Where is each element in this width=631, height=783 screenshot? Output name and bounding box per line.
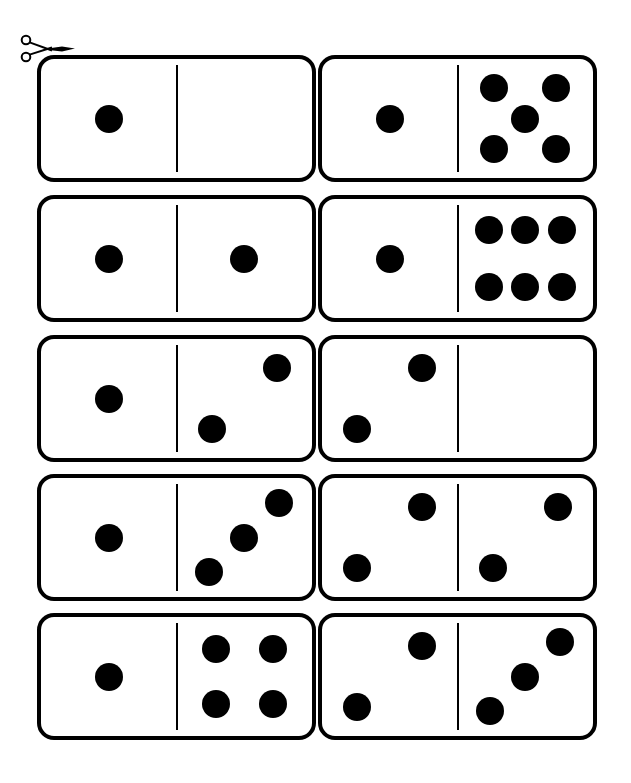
domino-pip — [511, 273, 539, 301]
domino-pip — [408, 354, 436, 382]
domino-half-right — [458, 199, 594, 318]
domino-pip — [476, 697, 504, 725]
domino-pip — [259, 690, 287, 718]
domino-tile[interactable] — [37, 195, 316, 322]
domino-tile[interactable] — [318, 195, 597, 322]
domino-pip — [95, 105, 123, 133]
domino-half-right — [458, 478, 594, 597]
domino-half-right — [177, 617, 313, 736]
domino-tile[interactable] — [37, 613, 316, 740]
domino-pip — [548, 216, 576, 244]
domino-tile[interactable] — [318, 55, 597, 182]
domino-pip — [202, 690, 230, 718]
domino-pip — [95, 385, 123, 413]
domino-half-left — [322, 59, 458, 178]
domino-half-left — [41, 617, 177, 736]
domino-tile[interactable] — [37, 474, 316, 601]
domino-pip — [511, 105, 539, 133]
domino-pip — [511, 663, 539, 691]
domino-pip — [343, 554, 371, 582]
domino-half-right — [458, 339, 594, 458]
domino-pip — [542, 135, 570, 163]
domino-tile[interactable] — [37, 55, 316, 182]
domino-pip — [259, 635, 287, 663]
domino-pip — [230, 524, 258, 552]
domino-half-right — [458, 59, 594, 178]
domino-pip — [376, 245, 404, 273]
domino-pip — [230, 245, 258, 273]
domino-pip — [95, 524, 123, 552]
domino-pip — [343, 693, 371, 721]
domino-half-left — [322, 339, 458, 458]
domino-pip — [376, 105, 404, 133]
domino-half-left — [41, 59, 177, 178]
domino-half-left — [41, 339, 177, 458]
domino-pip — [475, 273, 503, 301]
domino-pip — [475, 216, 503, 244]
domino-half-left — [322, 199, 458, 318]
domino-half-left — [322, 478, 458, 597]
domino-half-right — [177, 339, 313, 458]
domino-half-right — [177, 59, 313, 178]
domino-pip — [542, 74, 570, 102]
domino-tile[interactable] — [37, 335, 316, 462]
domino-pip — [408, 493, 436, 521]
domino-half-left — [41, 199, 177, 318]
domino-pip — [408, 632, 436, 660]
domino-half-right — [177, 478, 313, 597]
domino-pip — [265, 489, 293, 517]
domino-pip — [546, 628, 574, 656]
domino-half-left — [322, 617, 458, 736]
domino-tile[interactable] — [318, 474, 597, 601]
domino-pip — [479, 554, 507, 582]
domino-worksheet-page — [0, 0, 631, 783]
domino-pip — [548, 273, 576, 301]
domino-tile[interactable] — [318, 613, 597, 740]
domino-pip — [95, 663, 123, 691]
domino-pip — [480, 74, 508, 102]
domino-half-right — [177, 199, 313, 318]
domino-pip — [480, 135, 508, 163]
domino-pip — [511, 216, 539, 244]
domino-pip — [544, 493, 572, 521]
domino-pip — [198, 415, 226, 443]
domino-pip — [195, 558, 223, 586]
domino-pip — [263, 354, 291, 382]
domino-pip — [95, 245, 123, 273]
domino-half-right — [458, 617, 594, 736]
domino-half-left — [41, 478, 177, 597]
domino-tile[interactable] — [318, 335, 597, 462]
domino-grid — [0, 0, 631, 783]
domino-pip — [343, 415, 371, 443]
domino-pip — [202, 635, 230, 663]
